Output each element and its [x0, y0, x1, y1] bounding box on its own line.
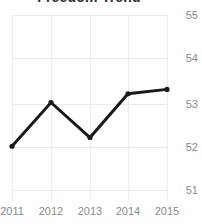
data-point-2015	[164, 87, 169, 92]
y-axis-tick-54: 54	[186, 52, 198, 64]
x-axis-tick-2011: 2011	[0, 205, 32, 218]
x-axis-tick-2012: 2012	[31, 205, 71, 218]
y-axis-tick-53: 53	[186, 98, 198, 110]
data-point-2013	[87, 135, 92, 140]
series-markers	[9, 87, 169, 149]
y-axis-tick-55: 55	[186, 9, 198, 21]
x-axis-tick-2015: 2015	[147, 205, 187, 218]
data-point-2012	[48, 100, 53, 105]
y-axis-tick-51: 51	[186, 184, 198, 196]
x-axis-tick-2013: 2013	[70, 205, 110, 218]
x-axis-tick-2014: 2014	[108, 205, 148, 218]
data-point-2011	[9, 144, 14, 149]
data-point-2014	[125, 91, 130, 96]
line-chart: Freedom Trend 55 54 53 52 51 2011 2012 2…	[0, 0, 202, 224]
plot-area	[0, 0, 178, 200]
y-axis-tick-52: 52	[186, 141, 198, 153]
data-series-freedom-trend	[0, 0, 178, 200]
